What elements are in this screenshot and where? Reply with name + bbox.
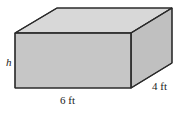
width-dimension-label: 6 ft xyxy=(60,95,75,106)
rectangular-prism-figure: h 6 ft 4 ft xyxy=(0,0,184,113)
height-dimension-label: h xyxy=(6,57,12,68)
box-front-face xyxy=(15,33,131,88)
box-drawing xyxy=(0,0,184,113)
depth-dimension-label: 4 ft xyxy=(152,81,167,92)
